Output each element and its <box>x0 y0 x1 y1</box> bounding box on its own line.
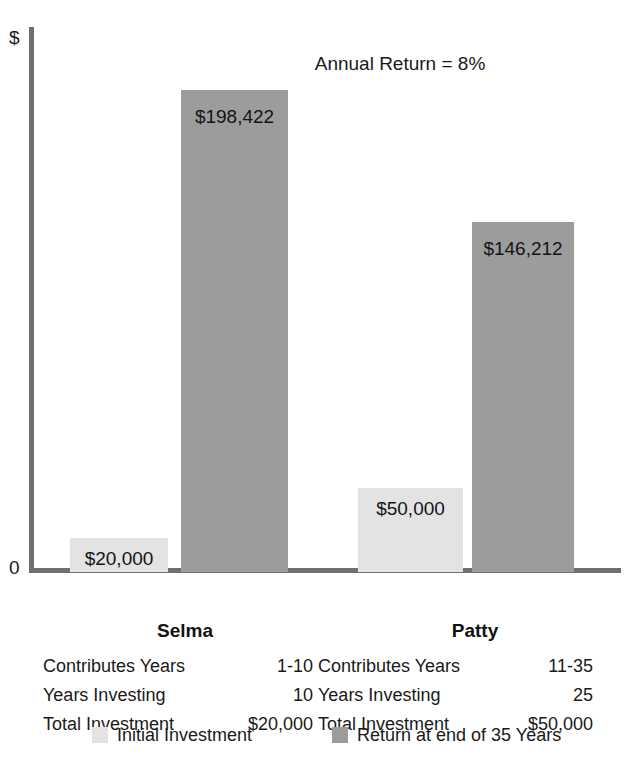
bar-patty-initial-investment: $50,000 <box>358 488 463 572</box>
table-row: Years Investing 10 <box>43 681 313 710</box>
stat-value: 25 <box>573 681 593 710</box>
stat-label: Contributes Years <box>43 652 185 681</box>
bar-selma-return-35-years: $198,422 <box>181 90 288 572</box>
legend-swatch-icon-initial <box>92 727 108 743</box>
y-axis-zero-label: 0 <box>9 558 20 577</box>
chart-title: Annual Return = 8% <box>200 53 600 75</box>
y-axis-top-label: $ <box>9 28 20 47</box>
legend-label-return: Return at end of 35 Years <box>357 724 561 746</box>
legend-swatch-icon-return <box>332 727 348 743</box>
y-axis-line <box>29 27 34 573</box>
table-row: Contributes Years 1-10 <box>43 652 313 681</box>
bar-value-selma-initial: $20,000 <box>70 548 168 570</box>
stat-label: Contributes Years <box>318 652 460 681</box>
stat-label: Years Investing <box>43 681 165 710</box>
bar-selma-initial-investment: $20,000 <box>70 538 168 572</box>
legend-label-initial: Initial Investment <box>117 724 252 746</box>
stat-value: $20,000 <box>248 710 313 739</box>
chart-canvas: $ 0 Annual Return = 8% $20,000 $198,422 … <box>0 0 632 761</box>
category-label-patty: Patty <box>400 620 550 642</box>
table-row: Contributes Years 11-35 <box>318 652 593 681</box>
bar-value-selma-return: $198,422 <box>181 106 288 128</box>
bar-value-patty-return: $146,212 <box>472 238 574 260</box>
stat-value: 10 <box>293 681 313 710</box>
stat-label: Years Investing <box>318 681 440 710</box>
stat-value: 11-35 <box>548 652 593 681</box>
stat-value: 1-10 <box>277 652 313 681</box>
table-row: Years Investing 25 <box>318 681 593 710</box>
legend-item-initial-investment: Initial Investment <box>92 724 252 746</box>
bar-patty-return-35-years: $146,212 <box>472 222 574 572</box>
category-label-selma: Selma <box>110 620 260 642</box>
legend-item-return-35-years: Return at end of 35 Years <box>332 724 561 746</box>
bar-value-patty-initial: $50,000 <box>358 498 463 520</box>
